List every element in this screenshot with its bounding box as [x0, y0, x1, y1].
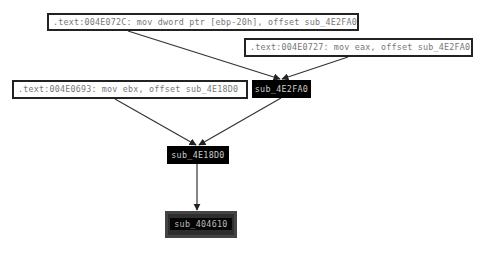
node-sub_4E18D0[interactable]: sub_4E18D0 [167, 146, 229, 164]
xref-box-004E072C[interactable]: .text:004E072C: mov dword ptr [ebp-20h],… [47, 13, 359, 31]
node-label: sub_404610 [170, 218, 231, 230]
node-label: sub_4E2FA0 [255, 84, 308, 94]
xref-text: .text:004E0727: mov eax, offset sub_4E2F… [250, 42, 470, 52]
edge-ref3-to-sub_4E18D0 [115, 99, 196, 145]
xref-box-004E0727[interactable]: .text:004E0727: mov eax, offset sub_4E2F… [244, 38, 473, 57]
edge-ref2-to-sub_4E2FA0 [282, 57, 348, 79]
xref-text: .text:004E072C: mov dword ptr [ebp-20h],… [53, 17, 357, 27]
xref-box-004E0693[interactable]: .text:004E0693: mov ebx, offset sub_4E18… [12, 80, 248, 99]
edge-sub_4E2FA0-to-sub_4E18D0 [199, 98, 281, 145]
node-sub_404610[interactable]: sub_404610 [165, 211, 237, 238]
node-sub_4E2FA0[interactable]: sub_4E2FA0 [252, 80, 311, 98]
xref-text: .text:004E0693: mov ebx, offset sub_4E18… [18, 84, 238, 94]
node-label: sub_4E18D0 [171, 150, 224, 160]
